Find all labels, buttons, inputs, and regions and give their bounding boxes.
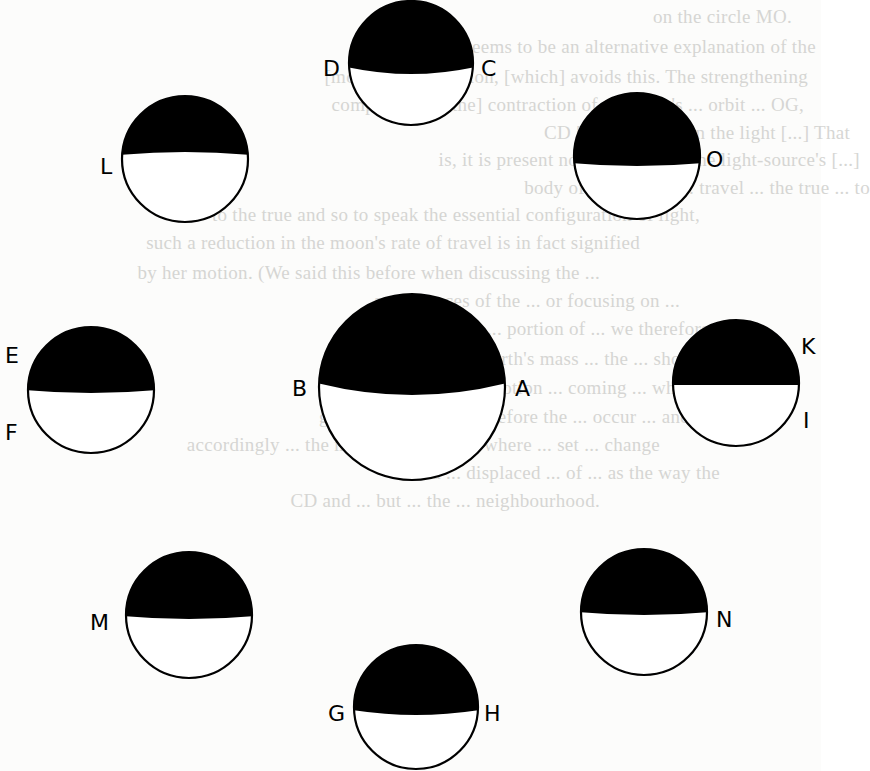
shadow-half	[579, 545, 709, 615]
shadow-half	[120, 92, 250, 155]
shadow-half	[124, 548, 254, 619]
point-label-b: B	[292, 376, 307, 401]
shadow-half	[26, 323, 156, 393]
point-label-m: M	[90, 610, 109, 635]
phase-circle-ab	[317, 290, 507, 480]
shadow-half	[347, 0, 475, 74]
point-label-d: D	[323, 56, 340, 81]
point-label-c: C	[481, 56, 496, 81]
point-label-n: N	[716, 607, 732, 632]
phase-circle-gh	[352, 641, 480, 769]
phase-circle-o	[572, 89, 702, 219]
point-label-f: F	[5, 420, 18, 445]
phase-circle-m	[124, 548, 254, 678]
phase-circle-dc	[347, 0, 475, 125]
shadow-half	[572, 89, 702, 166]
shadow-half	[352, 641, 480, 715]
point-label-o: O	[706, 147, 723, 172]
shadow-half	[671, 316, 801, 385]
phase-circle-ki	[671, 316, 801, 446]
point-label-k: K	[801, 334, 816, 359]
shadow-half	[317, 290, 507, 395]
point-label-h: H	[484, 701, 501, 726]
point-label-l: L	[100, 154, 113, 179]
phase-circles	[26, 0, 801, 769]
point-label-e: E	[5, 343, 19, 368]
point-label-i: I	[803, 408, 810, 433]
point-label-g: G	[328, 701, 345, 726]
point-label-a: A	[515, 376, 530, 401]
phase-circle-n	[579, 545, 709, 675]
phase-circle-ef	[26, 323, 156, 453]
phase-circle-l	[120, 92, 250, 222]
